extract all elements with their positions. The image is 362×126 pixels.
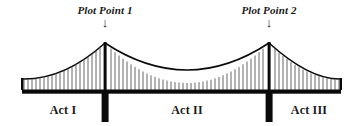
right-anchor-post: [340, 78, 342, 90]
deck-bar: [22, 90, 341, 94]
tower-2-pier: [266, 90, 273, 122]
cable-left-span: [22, 43, 105, 79]
tower-1-pier: [102, 90, 109, 122]
tower-plot-point-1: [102, 42, 109, 122]
tower-2-mast: [268, 42, 271, 91]
tower-1-mast: [104, 42, 107, 91]
main-cables: [22, 43, 341, 79]
left-anchor-post: [21, 78, 23, 90]
act-2-label: Act II: [171, 104, 203, 117]
cable-right-span: [269, 43, 341, 79]
suspender-cables: [24, 47, 339, 90]
anchorages: [21, 78, 342, 90]
bridge-diagram: Plot Point 1 ↓ Plot Point 2 ↓ Act I Act …: [0, 0, 362, 126]
act-1-label: Act I: [50, 104, 77, 117]
cable-center-span: [105, 43, 269, 70]
bridge-deck: [22, 90, 341, 94]
tower-plot-point-2: [266, 42, 273, 122]
act-3-label: Act III: [291, 104, 327, 117]
plot-point-1-arrow-icon: ↓: [102, 17, 109, 29]
plot-point-2-arrow-icon: ↓: [266, 17, 273, 29]
